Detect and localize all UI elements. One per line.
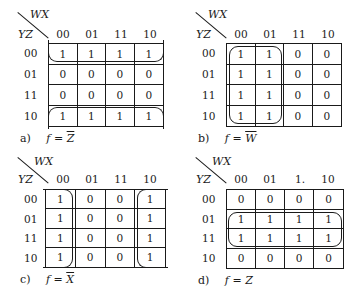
cell: 0 [106, 248, 136, 267]
yz-label: YZ [18, 28, 33, 41]
row-header: 01 [24, 68, 44, 80]
col-header: 11 [106, 173, 136, 185]
group-loop-right [137, 189, 168, 268]
wx-label: WX [30, 8, 49, 21]
caption-var: X [66, 273, 74, 286]
caption-letter: b) [198, 132, 209, 145]
caption-var: Z [67, 132, 75, 145]
cell: 0 [284, 44, 313, 65]
cell: 0 [256, 190, 285, 210]
col-header: 01 [255, 173, 285, 185]
wx-label: WX [34, 155, 53, 168]
wx-label: WX [212, 155, 231, 168]
cell: 0 [76, 229, 106, 248]
col-header: 11 [106, 28, 136, 40]
group-loop [229, 46, 282, 124]
group-loop [228, 212, 342, 247]
kmap-c: WX YZ 00 01 11 10 00 01 11 10 1 0 0 1 1 … [0, 151, 178, 302]
cell: 0 [106, 85, 135, 106]
cell: 0 [313, 85, 342, 106]
caption-letter: d) [198, 274, 209, 287]
group-loop-bottom [48, 107, 164, 129]
row-header: 00 [202, 47, 222, 59]
cell: 0 [284, 65, 313, 86]
cell: 0 [285, 249, 314, 269]
row-header: 01 [202, 68, 222, 80]
cell: 0 [284, 106, 313, 127]
caption-lhs: f = [46, 132, 63, 145]
wx-label: WX [208, 8, 227, 21]
group-loop-left [43, 189, 73, 268]
row-header: 00 [202, 193, 222, 205]
col-header: 10 [135, 173, 165, 185]
caption-a: a) f = Z [20, 132, 74, 145]
cell: 0 [78, 65, 107, 86]
caption-c: c) f = X [20, 273, 74, 286]
cell: 0 [227, 190, 256, 210]
cell: 0 [313, 44, 342, 65]
row-header: 11 [202, 232, 222, 244]
cell: 0 [49, 85, 78, 106]
kmap-d: WX YZ 00 01 1. 10 00 01 11 10 0 0 0 0 1 … [178, 151, 356, 302]
row-header: 01 [24, 213, 44, 225]
caption-letter: a) [20, 132, 31, 145]
cell: 0 [256, 249, 285, 269]
col-header: 01 [255, 28, 285, 40]
col-header: 00 [48, 173, 78, 185]
col-header: 11 [284, 28, 314, 40]
caption-var: W [245, 132, 256, 145]
cell: 0 [76, 209, 106, 228]
row-header: 11 [202, 89, 222, 101]
cell: 0 [285, 190, 314, 210]
caption-d: d) f = Z [198, 274, 253, 287]
cell: 0 [314, 190, 343, 210]
row-header: 01 [202, 213, 222, 225]
cell: 0 [313, 65, 342, 86]
row-header: 10 [202, 110, 222, 122]
caption-b: b) f = W [198, 132, 256, 145]
caption-letter: c) [20, 273, 30, 286]
yz-label: YZ [196, 173, 211, 186]
cell: 0 [76, 248, 106, 267]
cell: 0 [106, 190, 136, 209]
row-header: 00 [24, 193, 44, 205]
caption-var: Z [245, 274, 253, 287]
row-header: 00 [24, 47, 44, 59]
col-header: 1. [285, 173, 315, 185]
cell: 0 [49, 65, 78, 86]
kmap-b: WX YZ 00 01 11 10 00 01 11 10 1 1 0 0 1 … [178, 0, 356, 151]
row-header: 10 [202, 252, 222, 264]
cell: 0 [106, 65, 135, 86]
col-header: 10 [313, 173, 343, 185]
row-header: 10 [24, 110, 44, 122]
row-header: 10 [24, 252, 44, 264]
cell: 0 [314, 249, 343, 269]
row-header: 11 [24, 89, 44, 101]
cell: 0 [227, 249, 256, 269]
row-header: 11 [24, 232, 44, 244]
cell: 0 [313, 106, 342, 127]
yz-label: YZ [18, 173, 33, 186]
cell: 0 [106, 209, 136, 228]
caption-lhs: f = [46, 273, 63, 286]
caption-lhs: f = [225, 132, 242, 145]
group-loop-top [48, 40, 164, 62]
kmap-a: WX YZ 00 01 11 10 00 01 11 10 1 1 1 1 0 … [0, 0, 178, 151]
caption-lhs: f = [225, 274, 242, 287]
col-header: 00 [226, 28, 256, 40]
col-header: 00 [48, 28, 78, 40]
col-header: 01 [77, 28, 107, 40]
cell: 0 [284, 85, 313, 106]
col-header: 01 [77, 173, 107, 185]
yz-label: YZ [196, 28, 211, 41]
col-header: 10 [313, 28, 343, 40]
col-header: 00 [226, 173, 256, 185]
cell: 0 [106, 229, 136, 248]
col-header: 10 [135, 28, 165, 40]
cell: 0 [76, 190, 106, 209]
cell: 0 [135, 65, 164, 86]
cell: 0 [135, 85, 164, 106]
cell: 0 [78, 85, 107, 106]
